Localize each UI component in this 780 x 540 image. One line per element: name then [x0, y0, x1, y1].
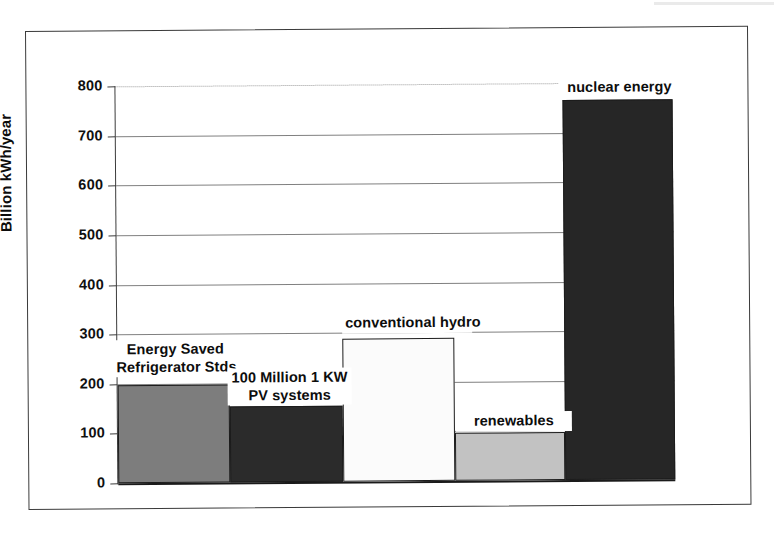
figure-page: Billion kWh/year 800 700 600 500 400 300… [0, 0, 780, 540]
y-tick-0 [110, 483, 118, 484]
y-tick-label-800: 800 [32, 78, 102, 93]
y-tick-label-600: 600 [33, 178, 103, 193]
bar-renewables[interactable] [455, 432, 565, 481]
y-tick-800 [107, 86, 115, 87]
bar-label-line1: renewables [474, 412, 554, 429]
bar-energy-saved-refrigerator-stds[interactable] [118, 384, 231, 483]
bar-100-million-1-kw-pv-systems[interactable] [230, 406, 344, 483]
y-tick-label-200: 200 [35, 376, 105, 391]
bar-label-line1: 100 Million 1 KW [231, 369, 347, 386]
bar-nuclear-energy[interactable] [563, 100, 676, 480]
y-tick-label-700: 700 [33, 128, 103, 143]
bar-label-energy-saved-refrigerator-stds: Energy Saved Refrigerator Stds [113, 339, 237, 377]
bar-label-line1: Energy Saved [127, 341, 224, 358]
chart-canvas: Billion kWh/year 800 700 600 500 400 300… [0, 0, 780, 540]
y-tick-label-400: 400 [34, 277, 104, 292]
bar-label-nuclear-energy: nuclear energy [558, 77, 680, 98]
y-tick-500 [108, 235, 116, 236]
bar-label-conventional-hydro: conventional hydro [342, 313, 472, 334]
y-tick-400 [109, 285, 117, 286]
y-tick-600 [108, 186, 116, 187]
bar-label-100-million-1-kw-pv-systems: 100 Million 1 KW PV systems [227, 368, 351, 406]
y-tick-300 [109, 334, 117, 335]
bar-label-line2: PV systems [231, 386, 349, 405]
bar-label-renewables: renewables [456, 411, 572, 432]
y-tick-200 [110, 384, 118, 385]
y-tick-label-100: 100 [35, 426, 105, 441]
bar-label-line1: conventional hydro [345, 314, 481, 331]
y-tick-100 [110, 434, 118, 435]
y-tick-700 [108, 136, 116, 137]
y-tick-label-300: 300 [34, 327, 104, 342]
bar-label-line2: Refrigerator Stds [116, 358, 234, 377]
bar-label-line1: nuclear energy [567, 78, 672, 95]
y-tick-label-0: 0 [35, 475, 105, 490]
plot-area: Energy Saved Refrigerator Stds 100 Milli… [115, 82, 675, 483]
y-tick-label-500: 500 [33, 227, 103, 242]
y-axis-title: Billion kWh/year [0, 114, 14, 232]
bar-conventional-hydro[interactable] [342, 338, 455, 482]
